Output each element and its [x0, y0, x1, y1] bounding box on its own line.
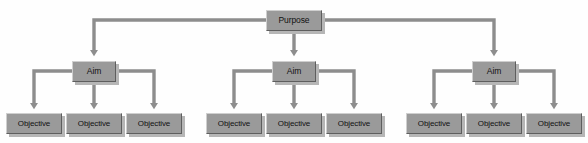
connector-aim-3-to-objective-3-3: [516, 71, 554, 105]
node-aim-1-label: Aim: [87, 67, 101, 76]
node-objective-3-1[interactable]: Objective: [406, 113, 462, 134]
node-objective-1-2-label: Objective: [78, 119, 110, 127]
hierarchy-diagram: Purpose Aim Aim Aim Objective Objective …: [0, 0, 588, 143]
node-objective-3-1-label: Objective: [418, 119, 450, 127]
node-objective-2-3[interactable]: Objective: [326, 113, 382, 134]
node-objective-3-2[interactable]: Objective: [466, 113, 522, 134]
node-objective-1-1-label: Objective: [18, 119, 50, 127]
node-objective-3-3[interactable]: Objective: [526, 113, 582, 134]
connector-aim-3-to-objective-3-1: [434, 71, 472, 105]
node-aim-1[interactable]: Aim: [72, 61, 116, 82]
node-aim-2[interactable]: Aim: [272, 61, 316, 82]
node-objective-2-1-label: Objective: [218, 119, 250, 127]
node-aim-3-label: Aim: [487, 67, 501, 76]
node-purpose-label: Purpose: [279, 16, 310, 25]
node-objective-3-3-label: Objective: [538, 119, 570, 127]
connector-aim-1-to-objective-1-3: [116, 71, 154, 105]
connector-aim-2-to-objective-2-1: [234, 71, 272, 105]
node-objective-3-2-label: Objective: [478, 119, 510, 127]
node-aim-2-label: Aim: [287, 67, 301, 76]
node-objective-2-3-label: Objective: [338, 119, 370, 127]
node-objective-2-2-label: Objective: [278, 119, 310, 127]
node-objective-1-2[interactable]: Objective: [66, 113, 122, 134]
node-objective-1-3-label: Objective: [138, 119, 170, 127]
connector-aim-2-to-objective-2-3: [316, 71, 354, 105]
node-objective-1-3[interactable]: Objective: [126, 113, 182, 134]
node-purpose[interactable]: Purpose: [266, 10, 322, 31]
node-objective-1-1[interactable]: Objective: [6, 113, 62, 134]
connector-purpose-to-aim-1: [94, 20, 266, 52]
connector-purpose-to-aim-3: [322, 20, 494, 52]
connector-aim-1-to-objective-1-1: [34, 71, 72, 105]
node-objective-2-2[interactable]: Objective: [266, 113, 322, 134]
node-aim-3[interactable]: Aim: [472, 61, 516, 82]
node-objective-2-1[interactable]: Objective: [206, 113, 262, 134]
